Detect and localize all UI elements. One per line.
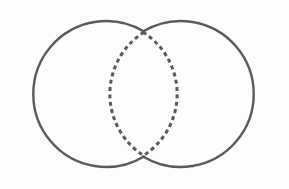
venn-diagram-figure bbox=[0, 0, 289, 189]
diagram-background bbox=[0, 0, 289, 189]
venn-diagram-canvas bbox=[0, 0, 289, 189]
